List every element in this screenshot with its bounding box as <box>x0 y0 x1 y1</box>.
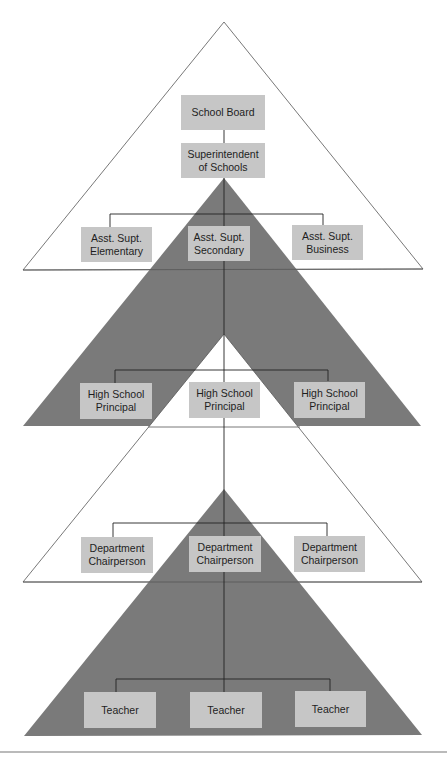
node-teacher-center: Teacher <box>190 692 262 728</box>
node-asst-supt-secondary: Asst. Supt. Secondary <box>188 226 250 261</box>
node-asst-supt-business: Asst. Supt. Business <box>292 225 363 260</box>
node-teacher-right: Teacher <box>295 691 366 727</box>
node-department-chairperson-center: Department Chairperson <box>189 536 261 572</box>
node-label-line1: Teacher <box>207 704 244 717</box>
node-label-line2: Secondary <box>194 244 244 257</box>
node-department-chairperson-right: Department Chairperson <box>294 536 365 572</box>
node-department-chairperson-left: Department Chairperson <box>81 537 153 573</box>
node-label-line1: Department <box>302 541 357 554</box>
node-high-school-principal-right: High School Principal <box>294 382 365 418</box>
node-label-line1: Teacher <box>312 703 349 716</box>
node-label-line1: Superintendent <box>187 148 258 161</box>
node-label-line2: Principal <box>204 400 244 413</box>
node-label-line1: Department <box>90 542 145 555</box>
node-label-line1: School Board <box>191 106 254 119</box>
node-label-line2: Business <box>306 243 349 256</box>
node-teacher-left: Teacher <box>84 692 156 728</box>
node-label-line2: Chairperson <box>88 555 145 568</box>
node-label-line2: of Schools <box>198 161 247 174</box>
node-high-school-principal-left: High School Principal <box>80 383 152 419</box>
node-label-line2: Principal <box>309 400 349 413</box>
node-superintendent: Superintendent of Schools <box>181 143 265 178</box>
node-label-line1: Asst. Supt. <box>302 230 353 243</box>
node-label-line1: Asst. Supt. <box>194 231 245 244</box>
node-label-line1: Teacher <box>101 704 138 717</box>
node-label-line1: Asst. Supt. <box>91 232 142 245</box>
node-label-line2: Elementary <box>90 245 143 258</box>
node-label-line1: Department <box>198 541 253 554</box>
node-high-school-principal-center: High School Principal <box>189 382 260 418</box>
node-label-line2: Principal <box>96 401 136 414</box>
node-school-board: School Board <box>181 95 265 130</box>
node-label-line1: High School <box>301 387 358 400</box>
node-asst-supt-elementary: Asst. Supt. Elementary <box>81 227 152 262</box>
node-label-line1: High School <box>88 388 145 401</box>
node-label-line2: Chairperson <box>196 554 253 567</box>
node-label-line2: Chairperson <box>301 554 358 567</box>
node-label-line1: High School <box>196 387 253 400</box>
